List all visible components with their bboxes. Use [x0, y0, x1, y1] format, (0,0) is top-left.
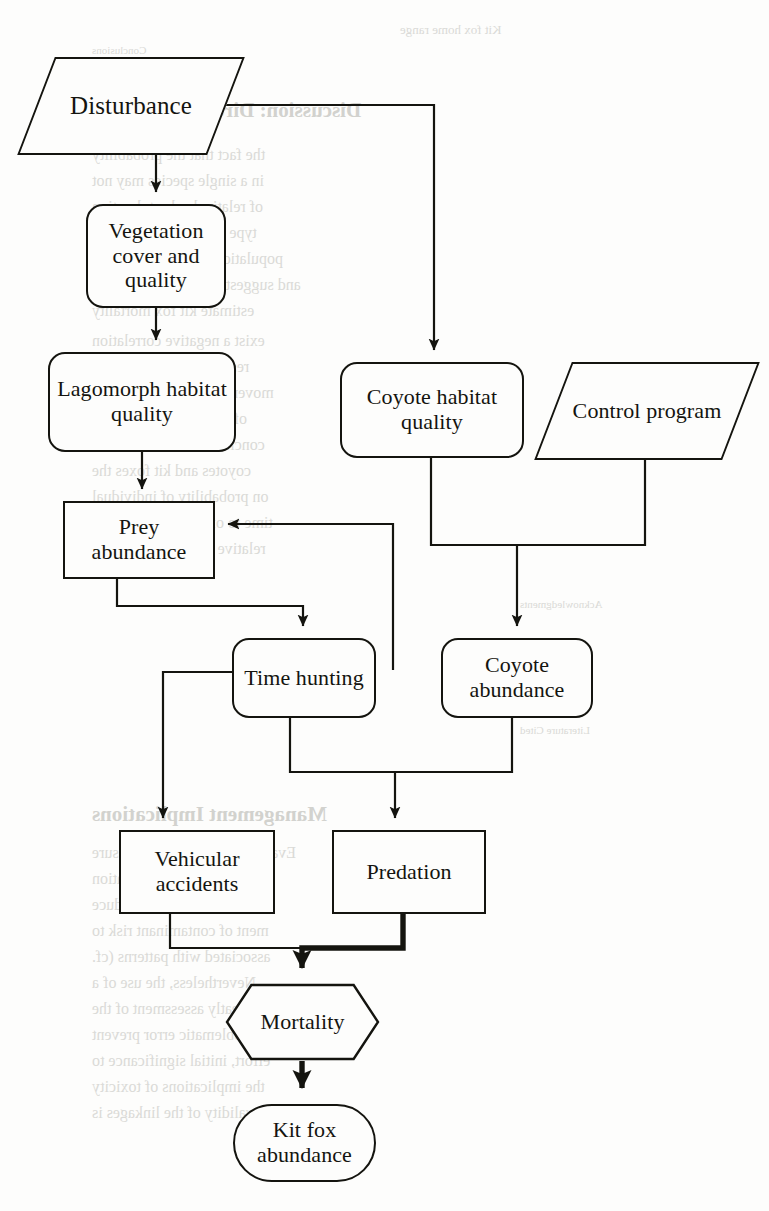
node-time-hunting[interactable]: Time hunting	[232, 638, 376, 718]
node-control-program[interactable]: Control program	[553, 362, 741, 460]
figure-page: Discussion: Direct Attributionthe fact t…	[0, 0, 769, 1211]
node-predation[interactable]: Predation	[332, 830, 486, 914]
node-disturbance[interactable]: Disturbance	[36, 57, 226, 155]
node-disturbance-label: Disturbance	[66, 92, 196, 120]
node-vegetation[interactable]: Vegetation cover and quality	[86, 204, 226, 308]
node-control-program-label: Control program	[569, 399, 726, 424]
node-vehicular[interactable]: Vehicular accidents	[119, 830, 275, 914]
node-time-hunting-label: Time hunting	[240, 666, 368, 691]
node-coyote-habitat-label: Coyote habitat quality	[342, 385, 522, 434]
node-vehicular-label: Vehicular accidents	[121, 847, 273, 896]
node-mortality[interactable]: Mortality	[225, 983, 380, 1061]
node-coyote-abundance-label: Coyote abundance	[443, 653, 591, 702]
node-prey-abundance-label: Prey abundance	[65, 515, 213, 564]
node-prey-abundance[interactable]: Prey abundance	[63, 501, 215, 579]
node-coyote-abundance[interactable]: Coyote abundance	[441, 638, 593, 718]
node-mortality-label: Mortality	[256, 1010, 348, 1035]
node-predation-label: Predation	[362, 860, 455, 885]
node-lagomorph-label: Lagomorph habitat quality	[50, 377, 234, 426]
node-kit-fox[interactable]: Kit fox abundance	[233, 1104, 376, 1182]
flowchart-nodes: DisturbanceVegetation cover and qualityL…	[0, 0, 769, 1211]
node-vegetation-label: Vegetation cover and quality	[88, 219, 224, 293]
node-kit-fox-label: Kit fox abundance	[235, 1118, 374, 1167]
node-lagomorph[interactable]: Lagomorph habitat quality	[48, 352, 236, 452]
node-coyote-habitat[interactable]: Coyote habitat quality	[340, 362, 524, 458]
